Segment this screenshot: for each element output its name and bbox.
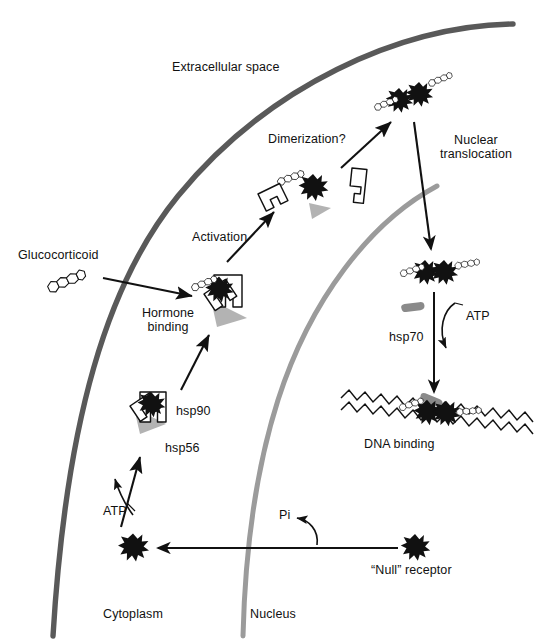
arrow-nuclear-translocation bbox=[414, 122, 431, 249]
atp-leader-nucleus bbox=[455, 303, 463, 305]
glucocorticoid-molecule bbox=[46, 269, 87, 293]
hsp70-molecule bbox=[400, 297, 426, 317]
label-dimerization: Dimerization? bbox=[268, 132, 346, 146]
label-hsp90: hsp90 bbox=[176, 404, 211, 418]
null-receptor bbox=[401, 534, 430, 561]
label-pi: Pi bbox=[279, 508, 290, 522]
label-dna-binding: DNA binding bbox=[364, 437, 435, 451]
label-nucleus: Nucleus bbox=[250, 607, 296, 621]
label-glucocorticoid: Glucocorticoid bbox=[18, 248, 99, 262]
released-hsp90-right bbox=[348, 168, 366, 203]
label-atp-cytoplasm: ATP bbox=[103, 504, 127, 518]
label-atp-nucleus: ATP bbox=[466, 309, 490, 323]
label-null-receptor: “Null” receptor bbox=[371, 563, 452, 577]
label-hormone-binding: Hormone binding bbox=[133, 306, 203, 334]
label-cytoplasm: Cytoplasm bbox=[103, 607, 163, 621]
pi-curved-arrow bbox=[297, 518, 317, 545]
receptor-dimer-nucleus bbox=[400, 257, 480, 284]
atp-curved-arrow-nucleus bbox=[442, 303, 455, 348]
label-hormone-binding-line1: Hormone binding bbox=[133, 306, 203, 334]
label-extracellular-space: Extracellular space bbox=[172, 60, 280, 74]
activated-steroid bbox=[276, 170, 304, 186]
arrow-dimerization bbox=[341, 122, 391, 168]
label-activation: Activation bbox=[192, 230, 247, 244]
hsp90-hsp56-receptor-complex bbox=[130, 392, 166, 434]
activated-receptor-group bbox=[258, 168, 367, 219]
receptor-dimer-top bbox=[373, 72, 453, 113]
diagram-canvas: Extracellular space Glucocorticoid Hormo… bbox=[0, 0, 540, 642]
arrow-hsp-complex-to-hormone-binding bbox=[181, 335, 209, 390]
label-nuclear-translocation: Nuclear translocation bbox=[433, 133, 519, 161]
pathway-illustration bbox=[0, 0, 540, 642]
label-hsp70: hsp70 bbox=[389, 330, 424, 344]
null-receptor-cytoplasm bbox=[118, 533, 149, 561]
activated-receptor bbox=[299, 174, 329, 201]
label-hsp56: hsp56 bbox=[165, 441, 200, 455]
arrow-glucocorticoid-to-receptor bbox=[103, 278, 192, 296]
released-hsp90 bbox=[258, 183, 288, 211]
released-hsp56-triangle bbox=[309, 203, 331, 219]
